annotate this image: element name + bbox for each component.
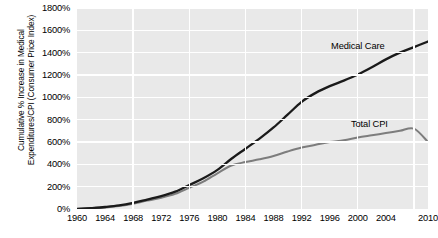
x-axis-tick-label: 1968 [123,213,143,223]
gridline-vertical [413,8,414,209]
gridline-horizontal [77,8,428,9]
gridline-vertical [245,8,246,209]
y-axis-tick-label: 1600% [42,25,70,35]
x-axis-tick-label: 1964 [95,213,115,223]
gridline-horizontal [77,97,428,98]
y-axis-tick-label: 1800% [42,3,70,13]
y-axis-tick-label: 400% [47,159,70,169]
series-plot [77,8,428,209]
x-axis-tick-label: 1992 [292,213,312,223]
x-axis-tick-label: 2000 [348,213,368,223]
gridline-horizontal [77,141,428,142]
x-axis-tick-label: 1996 [320,213,340,223]
x-axis-tick-label: 1984 [236,213,256,223]
series-label-medical-care: Medical Care [331,41,385,51]
gridline-vertical [357,8,358,209]
series-label-total-cpi: Total CPI [351,119,388,129]
y-axis-tick-label: 800% [47,115,70,125]
x-axis-tick-label: 1980 [207,213,227,223]
gridline-horizontal [77,164,428,165]
x-axis-tick-label: 2010 [418,213,438,223]
gridline-vertical [301,8,302,209]
x-axis-tick-label: 2004 [376,213,396,223]
x-axis-tick-label: 1988 [264,213,284,223]
gridline-horizontal [77,52,428,53]
gridline-horizontal [77,30,428,31]
x-axis-tick-label: 1960 [67,213,87,223]
gridline-horizontal [77,74,428,75]
y-axis-tick-label: 600% [47,137,70,147]
series-line-total-cpi [77,128,428,209]
gridline-vertical [132,8,133,209]
x-axis-tick-labels: 1960196419681972197619801984198819921996… [0,213,428,233]
x-axis-tick-label: 1972 [151,213,171,223]
x-axis-tick-label: 1976 [179,213,199,223]
y-axis-tick-label: 200% [47,182,70,192]
gridline-vertical [189,8,190,209]
y-axis-tick-labels: 0%200%400%600%800%1000%1200%1400%1600%18… [0,0,74,238]
y-axis-tick-label: 1200% [42,70,70,80]
y-axis-tick-label: 1400% [42,48,70,58]
gridline-horizontal [77,186,428,187]
plot-area [77,8,428,209]
y-axis-tick-label: 1000% [42,92,70,102]
